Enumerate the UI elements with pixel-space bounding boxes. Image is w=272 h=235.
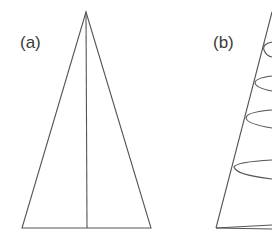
panel-a-drawing <box>22 12 151 228</box>
cone-base-b <box>216 225 272 228</box>
panel-b-label: (b) <box>213 34 234 51</box>
panel-a-label: (a) <box>20 34 41 51</box>
helix-curve-2 <box>255 76 272 91</box>
diagram-figure: (a) (b) <box>0 0 272 235</box>
helix-curve-3 <box>246 110 272 128</box>
cone-base-bottom-b <box>216 228 272 229</box>
helix-curve-1 <box>264 42 272 57</box>
helix-curve-4 <box>234 160 272 179</box>
center-axis-a <box>86 12 87 228</box>
